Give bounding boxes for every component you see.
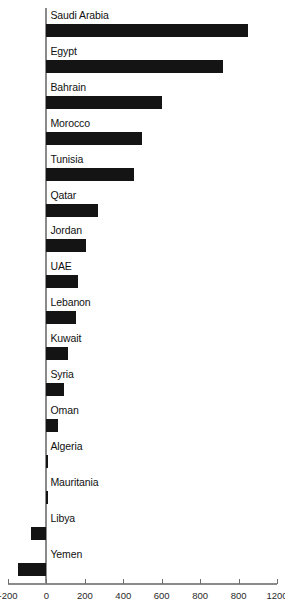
bar xyxy=(46,347,67,360)
x-axis-tick-mark xyxy=(85,579,86,584)
x-axis-tick-label: 200 xyxy=(77,590,93,601)
bar-row: Kuwait xyxy=(0,331,285,367)
bar xyxy=(46,60,223,73)
bar-category-label: Yemen xyxy=(50,547,82,562)
bar-row: Yemen xyxy=(0,547,285,583)
bar xyxy=(46,168,133,181)
x-axis-tick-label: 400 xyxy=(115,590,131,601)
bar-category-label: Tunisia xyxy=(50,152,83,167)
x-axis-tick-mark xyxy=(239,579,240,584)
bar-category-label: Egypt xyxy=(50,44,76,59)
plot-area: Saudi ArabiaEgyptBahrainMoroccoTunisiaQa… xyxy=(0,0,285,583)
bar-category-label: Mauritania xyxy=(50,475,98,490)
x-axis-tick-mark xyxy=(8,579,9,584)
bar xyxy=(46,419,58,432)
x-axis-tick-label: 600 xyxy=(154,590,170,601)
bar-category-label: Kuwait xyxy=(50,331,81,346)
bar-row: Jordan xyxy=(0,223,285,259)
bar-category-label: Syria xyxy=(50,367,73,382)
x-axis: -20002004006008008001200 xyxy=(0,583,285,615)
bar-row: Mauritania xyxy=(0,475,285,511)
bar-category-label: Oman xyxy=(50,403,78,418)
bar-row: Bahrain xyxy=(0,80,285,116)
bar-row: Egypt xyxy=(0,44,285,80)
x-axis-tick-mark xyxy=(200,579,201,584)
bar-row: Morocco xyxy=(0,116,285,152)
bar-category-label: Lebanon xyxy=(50,295,90,310)
bar-row: Saudi Arabia xyxy=(0,8,285,44)
bar-row: Oman xyxy=(0,403,285,439)
bar xyxy=(18,563,47,576)
x-axis-tick-mark xyxy=(46,579,47,584)
bar-category-label: Qatar xyxy=(50,188,76,203)
bar-row: Qatar xyxy=(0,188,285,224)
x-axis-tick-mark xyxy=(277,579,278,584)
bar xyxy=(46,383,63,396)
bar xyxy=(46,491,48,504)
bar xyxy=(46,455,48,468)
bar-row: Lebanon xyxy=(0,295,285,331)
bar-category-label: Saudi Arabia xyxy=(50,8,108,23)
x-axis-tick-label: 1200 xyxy=(266,590,285,601)
bar-chart: Saudi ArabiaEgyptBahrainMoroccoTunisiaQa… xyxy=(0,0,285,615)
bar-category-label: Jordan xyxy=(50,223,82,238)
bar xyxy=(46,132,141,145)
bar-category-label: Algeria xyxy=(50,439,82,454)
bar-row: Syria xyxy=(0,367,285,403)
x-axis-line xyxy=(8,583,277,585)
bar-category-label: Bahrain xyxy=(50,80,86,95)
bar-row: Algeria xyxy=(0,439,285,475)
x-axis-tick-mark xyxy=(162,579,163,584)
x-axis-tick-label: 0 xyxy=(44,590,49,601)
x-axis-tick-label: 800 xyxy=(231,590,247,601)
bar-category-label: Libya xyxy=(50,511,75,526)
bar-row: Tunisia xyxy=(0,152,285,188)
bar-category-label: Morocco xyxy=(50,116,90,131)
bar xyxy=(31,527,46,540)
bar xyxy=(46,204,98,217)
bar-category-label: UAE xyxy=(50,259,71,274)
bar-row: Libya xyxy=(0,511,285,547)
bar-row: UAE xyxy=(0,259,285,295)
bar xyxy=(46,239,85,252)
x-axis-tick-label: 800 xyxy=(192,590,208,601)
bar xyxy=(46,96,161,109)
bar xyxy=(46,24,248,37)
bar xyxy=(46,311,76,324)
x-axis-tick-label: -200 xyxy=(0,590,18,601)
x-axis-tick-mark xyxy=(123,579,124,584)
bar xyxy=(46,275,78,288)
